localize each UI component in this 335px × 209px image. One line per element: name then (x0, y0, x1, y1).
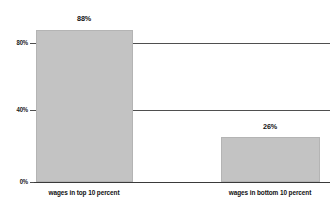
x-axis-baseline (34, 182, 330, 183)
y-tick-label-40: 40% (8, 106, 28, 113)
category-label-bottom-10: wages in bottom 10 percent (210, 189, 330, 197)
category-label-top-10: wages in top 10 percent (29, 189, 139, 197)
bar-value-label-top-10: 88% (57, 14, 111, 23)
gridline-40 (133, 110, 330, 111)
y-tick-label-0: 0% (8, 178, 28, 185)
gridline-80 (133, 43, 330, 44)
bar-wages-in-top-10-percent (36, 30, 133, 182)
bar-chart: 80% 40% 0% 88% 26% wages in top 10 perce… (0, 0, 335, 209)
bar-value-label-bottom-10: 26% (243, 122, 297, 131)
bar-wages-in-bottom-10-percent (221, 137, 320, 182)
y-tick-label-80: 80% (8, 39, 28, 46)
